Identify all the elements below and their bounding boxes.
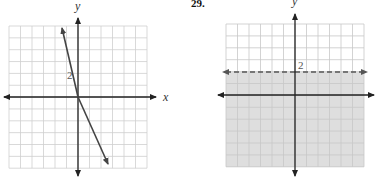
tick-label-2: 2	[67, 69, 73, 81]
tick-label-2: 2	[298, 59, 304, 71]
left-graph: y x 2	[0, 0, 189, 178]
y-axis-label: y	[291, 0, 298, 8]
y-axis-label: y	[74, 0, 81, 13]
x-axis-label: x	[162, 90, 169, 104]
graph-line	[62, 28, 78, 97]
right-graph-svg: y 2	[189, 0, 378, 178]
graph-line	[78, 97, 108, 164]
problem-number: 29.	[191, 0, 205, 9]
left-graph-svg: y x 2	[0, 0, 189, 178]
right-graph: y 2	[189, 0, 378, 178]
